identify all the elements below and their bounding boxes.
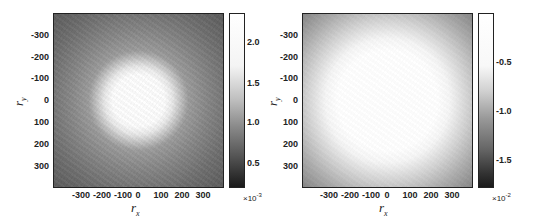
y-tick: -200 — [268, 52, 298, 62]
colorbar-tick: -0.5 — [496, 57, 512, 67]
y-tick: 100 — [268, 117, 298, 127]
left-panel: -300 -200 -100 0 100 200 300 -300 -200 -… — [0, 0, 267, 222]
colorbar-tick: -1.0 — [496, 106, 512, 116]
y-tick: 100 — [19, 117, 49, 127]
left-heatmap — [53, 13, 224, 188]
left-colorbar — [229, 13, 245, 188]
colorbar-scale-label: ×10-2 — [492, 192, 511, 203]
colorbar-tick: 0.5 — [247, 158, 260, 168]
x-axis-label: rx — [131, 200, 140, 218]
y-axis-label: ry — [265, 97, 283, 106]
y-tick: 300 — [268, 161, 298, 171]
x-axis-label: rx — [379, 200, 388, 218]
y-tick: 300 — [19, 161, 49, 171]
x-tick: 300 — [188, 190, 218, 200]
colorbar-tick: 1.0 — [247, 117, 260, 127]
right-heatmap — [302, 13, 473, 188]
y-tick: -300 — [268, 30, 298, 40]
x-tick: 300 — [437, 190, 467, 200]
y-tick: 200 — [268, 139, 298, 149]
y-tick: -100 — [268, 73, 298, 83]
y-tick: -300 — [19, 30, 49, 40]
colorbar-tick: -1.5 — [496, 155, 512, 165]
right-panel: -300 -200 -100 0 100 200 300 -300 -200 -… — [265, 0, 532, 222]
y-tick: 200 — [19, 139, 49, 149]
colorbar-scale-label: ×10-3 — [243, 192, 262, 203]
y-axis-label: ry — [11, 97, 29, 106]
right-colorbar — [478, 13, 494, 188]
y-tick: -200 — [19, 52, 49, 62]
colorbar-tick: 2.0 — [247, 37, 260, 47]
y-tick: -100 — [19, 73, 49, 83]
colorbar-tick: 1.5 — [247, 78, 260, 88]
